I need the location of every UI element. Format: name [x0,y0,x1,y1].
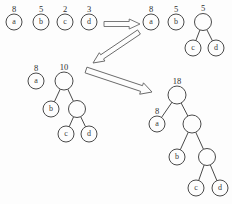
tree-node-s1-a: a8 [6,4,22,30]
node-weight-label: 5 [174,4,178,14]
tree-node-s4-b: b [169,149,185,165]
node-symbol-label: c [191,43,195,52]
internal-node-circle [183,115,201,133]
tree-edge [54,89,60,102]
node-symbol-label: d [214,43,218,52]
node-symbol-label: a [149,17,153,26]
internal-node-circle [199,149,216,166]
node-weight-label: 8 [149,4,153,14]
tree-edge [196,30,200,41]
tree-node-s4-bcd [183,115,201,133]
tree-node-s2-d: d [208,40,224,56]
internal-node-circle [55,72,73,90]
huffman-diagram-svg: a8b5c2d3a8b55cda810bcd18a8bcd [0,0,232,204]
tree-node-s3-d: d [81,126,97,142]
node-symbol-label: a [12,17,16,26]
tree-node-s3-bcd: 10 [55,62,73,90]
node-weight-label: 5 [39,4,43,14]
tree-node-s3-b: b [43,101,59,117]
node-weight-label: 10 [60,62,69,72]
nodes-layer: a8b5c2d3a8b55cda810bcd18a8bcd [6,3,228,196]
node-symbol-label: c [194,183,198,192]
tree-edge [162,102,172,117]
tree-node-s1-c: c2 [57,4,73,30]
internal-node-circle [69,101,86,118]
arrow-stage3-to-stage4 [84,64,154,97]
tree-node-s4-d: d [212,180,228,196]
node-symbol-label: d [87,17,91,26]
tree-node-s4-root: 18 [168,76,186,104]
tree-node-s1-b: b5 [33,4,49,30]
huffman-diagram-canvas: a8b5c2d3a8b55cda810bcd18a8bcd [0,0,232,204]
tree-node-s2-a: a8 [143,4,159,30]
node-weight-label: 8 [155,106,159,116]
node-weight-label: 3 [87,4,91,14]
node-weight-label: 2 [63,4,67,14]
arrows-layer [84,19,154,98]
tree-node-s4-c: c [188,180,204,196]
tree-edge [81,117,86,127]
tree-node-s2-cd: 5 [195,3,212,30]
tree-node-s1-d: d3 [81,4,97,30]
node-symbol-label: b [174,17,178,26]
node-weight-label: 8 [34,63,38,73]
tree-edge [180,132,188,150]
node-symbol-label: b [175,152,179,161]
node-symbol-label: d [87,129,91,138]
node-symbol-label: a [34,76,38,85]
tree-edge [199,165,204,180]
tree-edge [207,30,213,41]
node-symbol-label: c [63,17,67,26]
node-symbol-label: d [218,183,222,192]
tree-node-s3-a: a8 [28,63,44,89]
node-weight-label: 5 [201,3,205,13]
arrow-stage1-to-stage2 [104,19,140,29]
node-symbol-label: b [49,104,53,113]
tree-node-s3-cd [69,101,86,118]
arrow-stage1-to-stage2-shape [104,19,140,29]
tree-node-s3-c: c [58,126,74,142]
tree-edge [181,103,188,116]
node-symbol-label: b [39,17,43,26]
arrow-stage3-to-stage4-shape [84,64,154,97]
tree-edge [69,117,73,127]
tree-edge [196,132,204,149]
arrow-stage2-to-stage3-shape [90,28,142,67]
node-symbol-label: a [155,119,159,128]
arrow-stage2-to-stage3 [90,28,142,67]
tree-node-s2-c: c [185,40,201,56]
internal-node-circle [195,14,212,31]
tree-node-s4-cd [199,149,216,166]
internal-node-circle [168,86,186,104]
tree-edge [68,89,74,101]
node-weight-label: 8 [12,4,16,14]
node-symbol-label: c [64,129,68,138]
tree-node-s4-a: a8 [149,106,165,132]
tree-edge [210,165,217,181]
node-weight-label: 18 [173,76,182,86]
tree-node-s2-b: b5 [168,4,184,30]
